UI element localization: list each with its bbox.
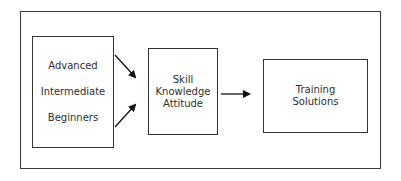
arrow-down-right-icon: [115, 55, 135, 77]
arrow-up-right-icon: [115, 105, 135, 127]
connector-arrows: [0, 0, 401, 181]
